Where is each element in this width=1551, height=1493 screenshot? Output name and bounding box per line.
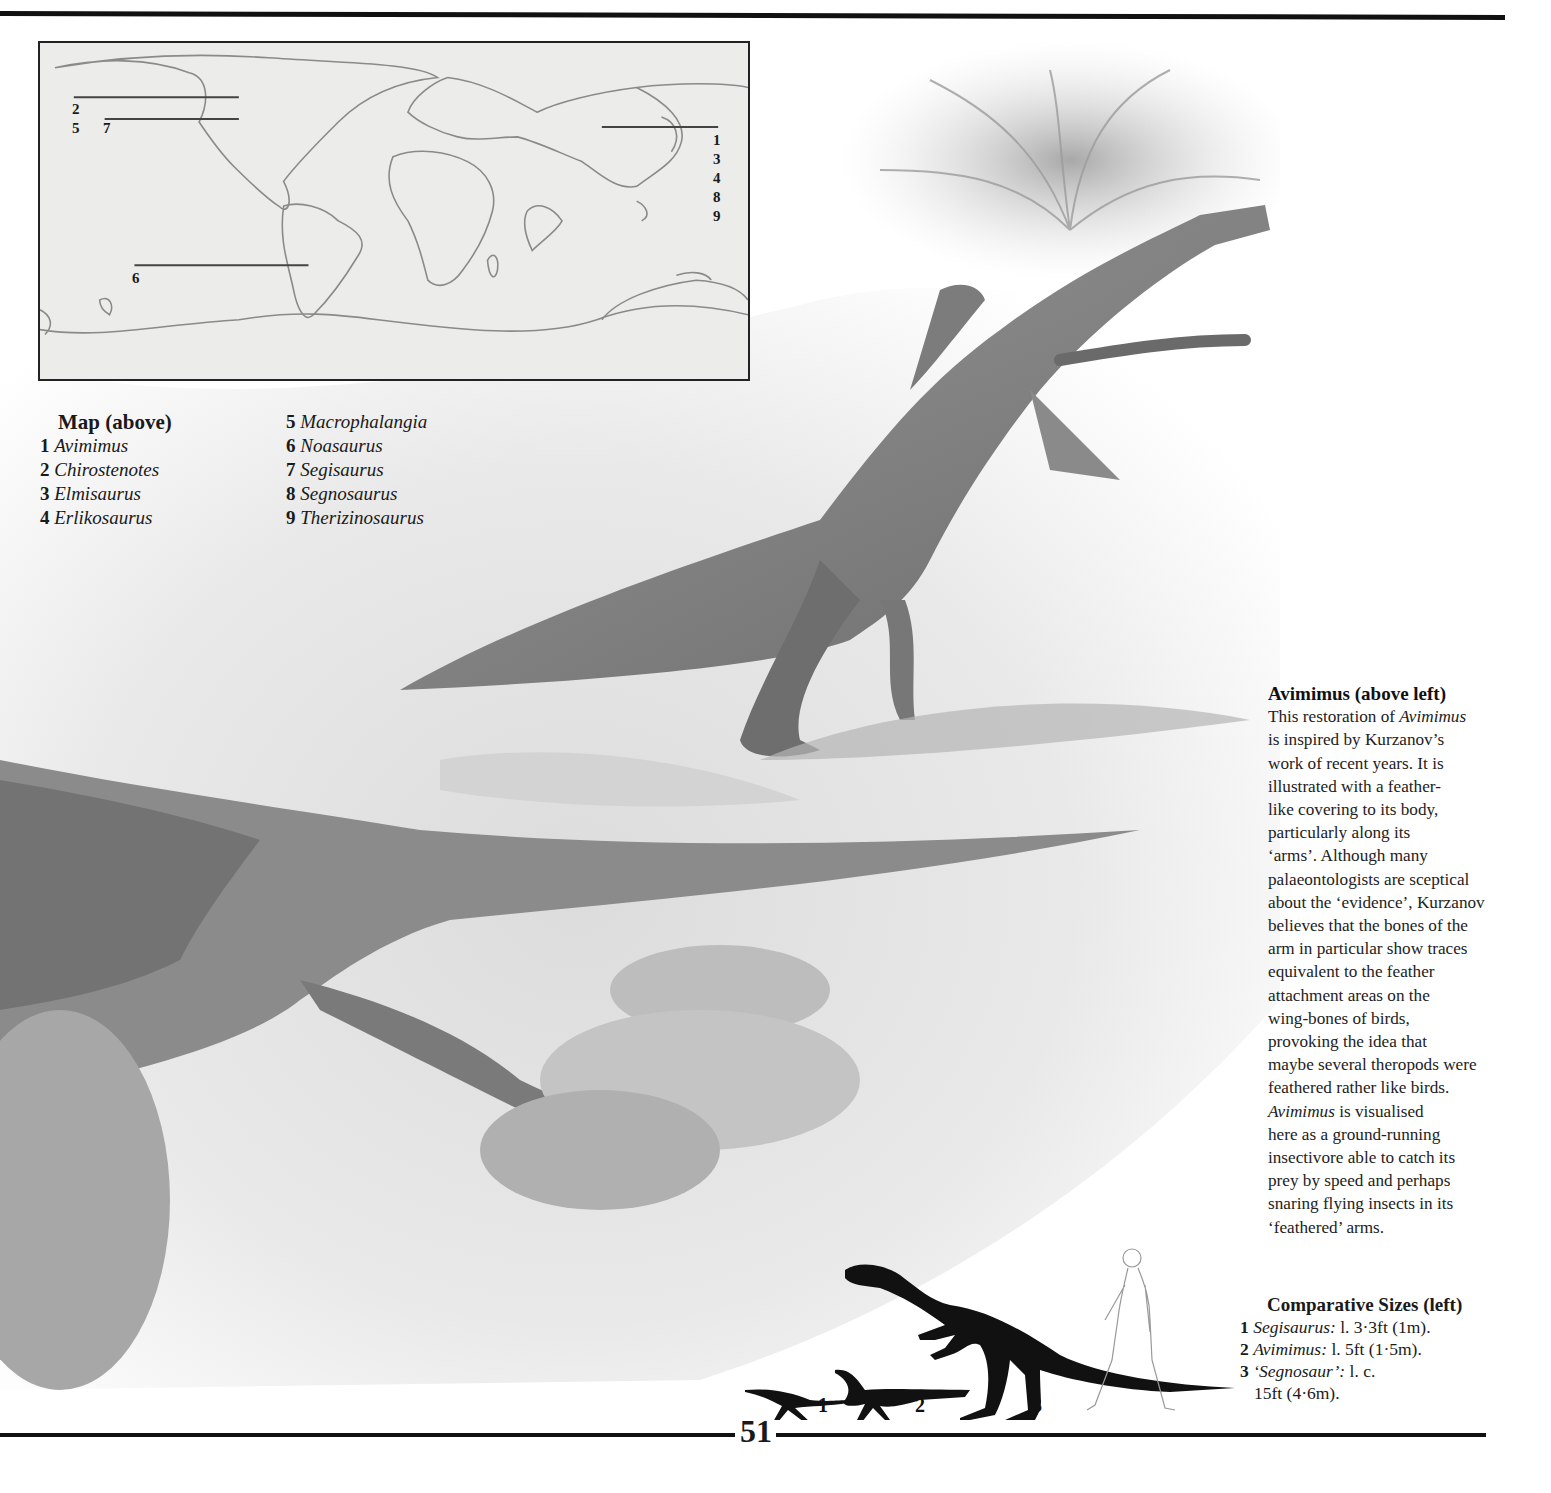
caption-line: like covering to its body, <box>1268 798 1508 821</box>
map-label-8: 8 <box>713 189 721 206</box>
caption-line: illustrated with a feather- <box>1268 775 1508 798</box>
silhouette-label-3: 3 <box>1032 1394 1042 1416</box>
caption-line: arm in particular show traces <box>1268 937 1508 960</box>
caption-line: about the ‘evidence’, Kurzanov <box>1268 891 1508 914</box>
caption-line: believes that the bones of the <box>1268 914 1508 937</box>
caption-line: feathered rather like birds. <box>1268 1076 1508 1099</box>
legend-item: 4 Erlikosaurus <box>40 506 280 530</box>
caption-line: wing-bones of birds, <box>1268 1007 1508 1030</box>
caption-line: prey by speed and perhaps <box>1268 1169 1508 1192</box>
caption-line: This restoration of Avimimus <box>1268 705 1508 728</box>
silhouette-label-2: 2 <box>915 1394 925 1416</box>
caption-line: here as a ground-running <box>1268 1123 1508 1146</box>
caption-line: particularly along its <box>1268 821 1508 844</box>
caption-line: provoking the idea that <box>1268 1030 1508 1053</box>
caption-line: Avimimus is visualised <box>1268 1100 1508 1123</box>
size-comparison-silhouettes: 1 2 3 <box>740 1240 1240 1420</box>
map-label-7: 7 <box>103 120 111 137</box>
caption-heading: Avimimus (above left) <box>1268 682 1508 705</box>
map-label-6: 6 <box>132 270 140 287</box>
map-label-2: 2 <box>72 101 80 118</box>
size-item: 3 ‘Segnosaur’: l. c. 15ft (4·6m). <box>1240 1360 1404 1404</box>
caption-body: This restoration of Avimimusis inspired … <box>1268 705 1508 1239</box>
sizes-heading: Comparative Sizes (left) <box>1240 1294 1510 1316</box>
map-label-9: 9 <box>713 208 721 225</box>
legend-item: 9 Therizinosaurus <box>286 506 486 530</box>
caption-line: maybe several theropods were <box>1268 1053 1508 1076</box>
size-item: 2 Avimimus: l. 5ft (1·5m). <box>1240 1338 1510 1360</box>
size-item: 1 Segisaurus: l. 3·3ft (1m). <box>1240 1316 1510 1338</box>
legend-item: 6 Noasaurus <box>286 434 486 458</box>
bottom-rule-right <box>776 1433 1486 1437</box>
comparative-sizes: Comparative Sizes (left) 1 Segisaurus: l… <box>1240 1294 1510 1404</box>
silhouette-avimimus <box>835 1370 970 1420</box>
legend-item: 5 Macrophalangia <box>286 410 486 434</box>
caption-line: ‘arms’. Although many <box>1268 844 1508 867</box>
map-legend-col2: 5 Macrophalangia 6 Noasaurus 7 Segisauru… <box>286 410 486 530</box>
map-label-3: 3 <box>713 151 721 168</box>
caption-line: is inspired by Kurzanov’s <box>1268 728 1508 751</box>
map-label-1: 1 <box>713 132 721 149</box>
world-map-outline <box>40 43 748 379</box>
legend-item: 2 Chirostenotes <box>40 458 280 482</box>
map-label-5: 5 <box>72 120 80 137</box>
caption-line: equivalent to the feather <box>1268 960 1508 983</box>
bottom-rule-left <box>0 1433 735 1437</box>
avimimus-caption: Avimimus (above left) This restoration o… <box>1268 682 1508 1239</box>
legend-title: Map (above) <box>40 410 280 434</box>
caption-line: work of recent years. It is <box>1268 752 1508 775</box>
top-rule <box>0 11 1505 20</box>
legend-item: 3 Elmisaurus <box>40 482 280 506</box>
caption-line: insectivore able to catch its <box>1268 1146 1508 1169</box>
legend-item: 7 Segisaurus <box>286 458 486 482</box>
caption-line: snaring flying insects in its <box>1268 1192 1508 1215</box>
caption-line: ‘feathered’ arms. <box>1268 1216 1508 1239</box>
caption-line: attachment areas on the <box>1268 984 1508 1007</box>
map-legend-col1: Map (above) 1 Avimimus 2 Chirostenotes 3… <box>40 410 280 530</box>
distribution-map: 2 5 7 6 1 3 4 8 9 <box>38 41 750 381</box>
map-label-4: 4 <box>713 170 721 187</box>
silhouette-label-1: 1 <box>818 1394 828 1416</box>
page-number: 51 <box>740 1413 772 1450</box>
legend-item: 8 Segnosaurus <box>286 482 486 506</box>
caption-line: palaeontologists are sceptical <box>1268 868 1508 891</box>
legend-item: 1 Avimimus <box>40 434 280 458</box>
